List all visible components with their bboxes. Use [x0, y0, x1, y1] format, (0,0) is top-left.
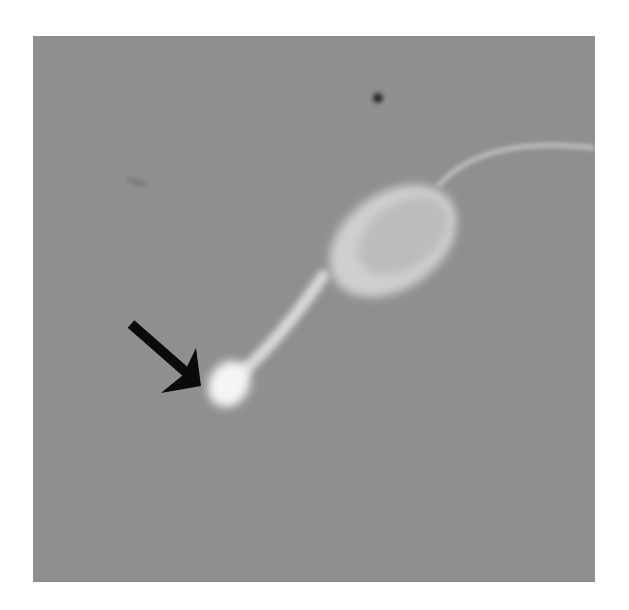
debris-dot	[373, 93, 383, 103]
micrograph-frame	[33, 36, 595, 582]
micrograph	[33, 36, 595, 582]
